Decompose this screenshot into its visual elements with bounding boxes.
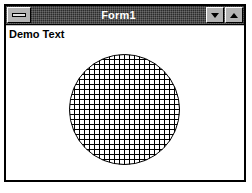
system-menu-button[interactable] xyxy=(7,7,31,23)
client-area: Demo Text xyxy=(6,26,244,180)
demo-text-label: Demo Text xyxy=(9,28,64,41)
grid-hatch-lines xyxy=(70,55,180,165)
hatched-circle-svg xyxy=(69,54,180,165)
triangle-down-icon xyxy=(211,13,219,18)
system-menu-box-icon xyxy=(12,13,26,17)
app-window: Form1 Demo Text xyxy=(4,4,246,182)
triangle-up-icon xyxy=(230,13,238,18)
window-title: Form1 xyxy=(31,6,206,24)
hatched-circle-graphic xyxy=(69,54,180,165)
caption-buttons xyxy=(206,7,243,23)
minimize-button[interactable] xyxy=(206,7,224,23)
maximize-button[interactable] xyxy=(225,7,243,23)
title-bar[interactable]: Form1 xyxy=(6,6,244,25)
